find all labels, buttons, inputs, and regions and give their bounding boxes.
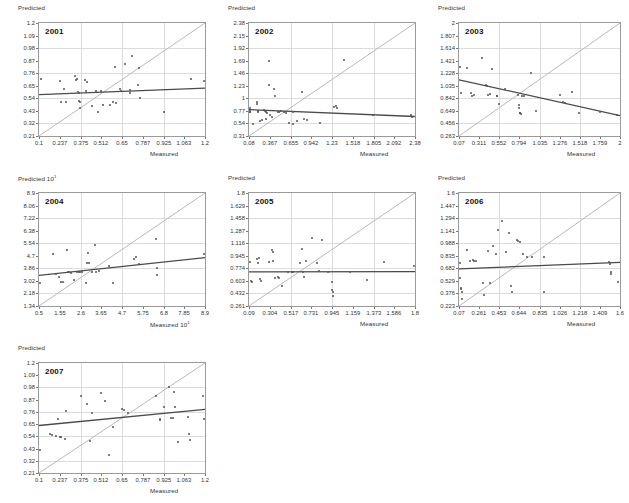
y-axis-tick-mark [36, 363, 38, 364]
x-axis-tick-label: 7.85 [178, 310, 189, 316]
data-point [301, 248, 303, 250]
data-point [292, 271, 294, 273]
x-axis-tick-mark [459, 307, 460, 309]
y-axis-tick-label: 1.421 [422, 58, 455, 64]
data-point [55, 273, 57, 275]
y-axis-tick-mark [456, 193, 458, 194]
data-point [91, 412, 93, 414]
data-point [156, 267, 158, 269]
x-axis-tick-mark [600, 137, 601, 139]
y-axis-tick-label: 4.7 [2, 253, 35, 259]
y-axis-tick-label: 0.43 [2, 446, 35, 452]
data-point [466, 249, 468, 251]
data-point [265, 118, 267, 120]
data-point [610, 273, 612, 275]
x-axis-tick-label: 5.75 [137, 310, 148, 316]
x-axis-tick-label: 2.38 [409, 140, 420, 146]
data-point [159, 418, 161, 420]
data-point [88, 262, 90, 264]
y-axis-tick-label: 1.458 [212, 215, 245, 221]
data-point [55, 435, 57, 437]
y-axis-tick-mark [456, 36, 458, 37]
y-axis-tick-label: 1.629 [212, 203, 245, 209]
y-axis-tick-label: 3.86 [2, 265, 35, 271]
y-axis-tick-mark [36, 375, 38, 376]
y-axis-tick-mark [456, 86, 458, 87]
data-point [523, 95, 525, 97]
x-axis-tick-mark [353, 307, 354, 309]
data-point [487, 250, 489, 252]
data-point [303, 118, 305, 120]
data-point [172, 417, 174, 419]
data-point [168, 386, 170, 388]
data-point [461, 298, 463, 300]
data-point [260, 280, 262, 282]
data-point [366, 279, 368, 281]
y-axis-tick-label: 0.31 [212, 133, 245, 139]
x-axis-tick-label: 0.552 [492, 140, 507, 146]
y-axis-tick-mark [456, 73, 458, 74]
y-axis-tick-mark [456, 306, 458, 307]
y-axis-tick-label: 6.38 [2, 228, 35, 234]
x-axis-tick-label: 0.942 [304, 140, 319, 146]
panel-year-label: 2002 [255, 27, 274, 36]
x-axis-label: Measured [360, 150, 388, 157]
data-point [473, 94, 475, 96]
data-point [155, 238, 157, 240]
x-axis-tick-label: 0.304 [263, 310, 278, 316]
data-point [459, 66, 461, 68]
data-point [501, 220, 503, 222]
y-axis-tick-label: 0.54 [212, 120, 245, 126]
x-axis-tick-label: 0.09 [243, 310, 254, 316]
x-axis-tick-label: 1.063 [177, 477, 192, 483]
x-axis-tick-label: 6.8 [160, 310, 168, 316]
data-point [281, 285, 283, 287]
data-point [123, 409, 125, 411]
x-axis-tick-mark [291, 307, 292, 309]
data-point [288, 122, 290, 124]
y-axis-tick-label: 0.774 [212, 265, 245, 271]
y-axis-tick-label: 1.294 [422, 215, 455, 221]
x-axis-tick-mark [81, 307, 82, 309]
x-axis-tick-label: 1.409 [593, 310, 608, 316]
x-axis-tick-mark [620, 137, 621, 139]
x-axis-tick-mark [459, 137, 460, 139]
x-axis-label: Measured [567, 150, 595, 157]
data-point [459, 277, 461, 279]
x-axis-tick-mark [143, 474, 144, 476]
y-axis-tick-label: 0.835 [422, 253, 455, 259]
x-axis-tick-label: 0.311 [472, 140, 486, 146]
y-axis-tick-label: 1.447 [422, 203, 455, 209]
data-point [543, 291, 545, 293]
x-axis-tick-mark [580, 307, 581, 309]
x-axis-tick-label: 0.925 [157, 477, 172, 483]
x-axis-tick-label: 0.517 [284, 310, 299, 316]
data-point [127, 412, 129, 414]
data-point [522, 253, 524, 255]
x-axis-tick-mark [353, 137, 354, 139]
y-axis-tick-mark [456, 281, 458, 282]
y-axis-label: Predicted [18, 344, 45, 351]
x-axis-tick-mark [122, 474, 123, 476]
y-axis-tick-label: 1.92 [212, 45, 245, 51]
y-axis-tick-mark [456, 23, 458, 24]
y-axis-tick-mark [456, 48, 458, 49]
identity-line [459, 193, 620, 306]
y-axis-tick-label: 0.98 [2, 384, 35, 390]
x-axis-tick-mark [122, 307, 123, 309]
x-axis-tick-label: 0.1 [35, 477, 43, 483]
x-axis-tick-mark [249, 137, 250, 139]
x-axis-tick-mark [184, 307, 185, 309]
data-point [319, 122, 321, 124]
y-axis-tick-label: 1.23 [212, 83, 245, 89]
x-axis-tick-mark [311, 137, 312, 139]
data-point [188, 433, 190, 435]
y-axis-tick-mark [456, 293, 458, 294]
y-axis-tick-label: 7.22 [2, 215, 35, 221]
y-axis-tick-mark [456, 231, 458, 232]
plot-area [248, 22, 416, 137]
data-point [517, 94, 519, 96]
data-point [318, 270, 320, 272]
data-point [266, 112, 268, 114]
y-axis-tick-label: 0.456 [422, 120, 455, 126]
